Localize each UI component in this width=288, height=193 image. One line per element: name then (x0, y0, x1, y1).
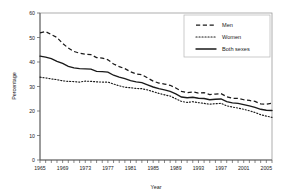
x-tick-label: 1973 (79, 165, 91, 171)
y-tick-label: 10 (29, 133, 35, 139)
y-tick-label: 50 (29, 35, 35, 41)
y-axis-title: Percentage (11, 72, 17, 100)
x-tick-label: 2001 (238, 165, 250, 171)
y-axis-tick-labels: 0102030405060 (29, 10, 35, 163)
y-tick-label: 60 (29, 10, 35, 16)
x-tick-label: 1965 (34, 165, 46, 171)
legend-label-men: Men (222, 22, 233, 28)
legend-label-both-sexes: Both sexes (222, 46, 250, 52)
series-line-women (40, 77, 272, 117)
x-tick-label: 1977 (102, 165, 114, 171)
x-tick-label: 1989 (170, 165, 182, 171)
y-tick-label: 30 (29, 84, 35, 90)
legend-label-women: Women (222, 34, 241, 40)
y-tick-label: 40 (29, 59, 35, 65)
chart-canvas: 0102030405060 19651969197319771981198519… (0, 0, 288, 193)
x-tick-label: 1981 (125, 165, 137, 171)
y-tick-label: 0 (32, 157, 35, 163)
series-line-both-sexes (40, 56, 272, 110)
x-axis-title: Year (151, 184, 162, 190)
x-tick-label: 2005 (261, 165, 273, 171)
x-tick-label: 1969 (57, 165, 69, 171)
x-tick-label: 1997 (215, 165, 227, 171)
line-chart: 0102030405060 19651969197319771981198519… (0, 0, 288, 193)
y-tick-label: 20 (29, 108, 35, 114)
x-tick-label: 1993 (193, 165, 205, 171)
x-axis-tick-labels: 1965196919731977198119851989199319972001… (34, 165, 272, 171)
x-tick-label: 1985 (147, 165, 159, 171)
legend: Men Women Both sexes (184, 15, 270, 57)
